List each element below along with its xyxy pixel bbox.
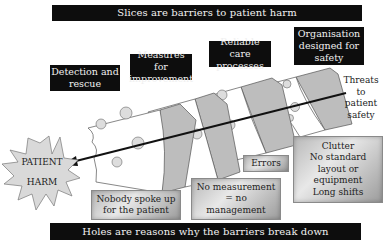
barrier-label-organisation: Organisation designed for safety: [294, 27, 364, 65]
hole-errors: Errors: [243, 155, 289, 172]
barrier-label-reliable-care: Reliable care processes: [209, 41, 271, 67]
hole-clutter: Clutter No standard layout or equipment …: [293, 136, 383, 203]
cheese-slice-1: [88, 104, 196, 193]
patient-harm-text: PATIENT HARM: [10, 152, 74, 192]
footer-title: Holes are reasons why the barriers break…: [82, 226, 328, 237]
hole-no-measurement: No measurement = no management: [191, 178, 281, 220]
barrier-label-detection-rescue: Detection and rescue: [50, 65, 120, 91]
hole-nobody-spoke-up: Nobody spoke up for the patient: [91, 190, 181, 220]
footer-bar: Holes are reasons why the barriers break…: [50, 223, 361, 240]
threats-to-patient-safety: Threats to patient safety: [338, 75, 384, 121]
barrier-label-measures-improvement: Measures for improvement: [130, 54, 192, 80]
